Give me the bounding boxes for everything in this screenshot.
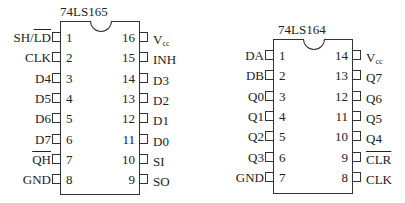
pin-label: Q5 bbox=[366, 112, 382, 130]
pin-label: D4 bbox=[35, 72, 51, 90]
pin-number: 9 bbox=[342, 151, 349, 165]
pin-label: Q6 bbox=[366, 92, 382, 110]
pin-box bbox=[353, 91, 361, 101]
pin-box bbox=[140, 174, 148, 184]
pin-label: GND bbox=[23, 173, 51, 191]
chip-title: 74LS164 bbox=[278, 22, 326, 38]
pin-number: 2 bbox=[66, 51, 73, 65]
pin-label: Q7 bbox=[366, 71, 382, 89]
pin-box bbox=[140, 73, 148, 83]
pin-label: D7 bbox=[35, 133, 51, 151]
pin-label: Q4 bbox=[366, 132, 382, 150]
pin-number: 3 bbox=[66, 72, 73, 86]
pin-number: 4 bbox=[279, 110, 286, 124]
pin-number: 1 bbox=[279, 49, 286, 63]
pin-box bbox=[52, 52, 60, 62]
pin-box bbox=[353, 172, 361, 182]
pin-box bbox=[140, 134, 148, 144]
pin-number: 12 bbox=[335, 90, 348, 104]
pin-box bbox=[52, 134, 60, 144]
pin-number: 9 bbox=[129, 173, 136, 187]
pin-label: Vcc bbox=[153, 33, 170, 51]
pin-box bbox=[353, 111, 361, 121]
pin-number: 6 bbox=[279, 151, 286, 165]
pin-number: 8 bbox=[342, 171, 349, 185]
pin-number: 7 bbox=[66, 153, 73, 167]
pin-box bbox=[140, 93, 148, 103]
pin-box bbox=[52, 93, 60, 103]
pin-number: 14 bbox=[335, 49, 348, 63]
pin-box bbox=[52, 154, 60, 164]
pin-label: D1 bbox=[153, 114, 169, 132]
pin-label: SI bbox=[153, 155, 165, 173]
pin-label: DA bbox=[245, 49, 264, 67]
pin-number: 4 bbox=[66, 92, 73, 106]
pin-number: 14 bbox=[122, 72, 135, 86]
chip-notch bbox=[90, 21, 112, 32]
pin-number: 6 bbox=[66, 133, 73, 147]
pin-number: 13 bbox=[122, 92, 135, 106]
pin-box bbox=[52, 73, 60, 83]
pin-box bbox=[52, 174, 60, 184]
pin-number: 10 bbox=[335, 130, 348, 144]
chip-title: 74LS165 bbox=[60, 4, 108, 20]
pin-number: 2 bbox=[279, 69, 286, 83]
pin-box bbox=[140, 32, 148, 42]
chip-notch bbox=[303, 39, 325, 50]
pin-box bbox=[140, 52, 148, 62]
pin-box bbox=[52, 113, 60, 123]
pin-box bbox=[353, 152, 361, 162]
pin-box bbox=[265, 91, 273, 101]
pin-label: GND bbox=[236, 171, 264, 189]
pin-number: 13 bbox=[335, 69, 348, 83]
pin-box bbox=[140, 154, 148, 164]
pin-box bbox=[265, 50, 273, 60]
pin-box bbox=[265, 152, 273, 162]
pin-number: 3 bbox=[279, 90, 286, 104]
pin-number: 11 bbox=[122, 133, 135, 147]
chip-body bbox=[60, 21, 140, 195]
pin-label: D5 bbox=[35, 92, 51, 110]
pin-box bbox=[52, 32, 60, 42]
pin-label: D6 bbox=[35, 112, 51, 130]
pin-label: Vcc bbox=[366, 51, 383, 69]
pin-number: 8 bbox=[66, 173, 73, 187]
pin-label: Q3 bbox=[248, 151, 264, 169]
pin-label: D3 bbox=[153, 74, 169, 92]
pin-number: 15 bbox=[122, 51, 135, 65]
pin-label: QH bbox=[32, 153, 51, 171]
pin-number: 5 bbox=[66, 112, 73, 126]
pin-label: Q2 bbox=[248, 130, 264, 148]
pin-box bbox=[265, 111, 273, 121]
pin-box bbox=[265, 70, 273, 80]
pin-label: DB bbox=[246, 69, 264, 87]
pin-number: 7 bbox=[279, 171, 286, 185]
pin-label: CLK bbox=[25, 51, 51, 69]
pin-label: SH/LD bbox=[13, 31, 51, 49]
pin-box bbox=[353, 70, 361, 80]
pin-number: 10 bbox=[122, 153, 135, 167]
pin-number: 5 bbox=[279, 130, 286, 144]
pin-number: 16 bbox=[122, 31, 135, 45]
pin-number: 1 bbox=[66, 31, 73, 45]
pin-label: D0 bbox=[153, 135, 169, 153]
pin-box bbox=[265, 131, 273, 141]
pin-label: SO bbox=[153, 175, 170, 193]
pin-label: INH bbox=[153, 53, 176, 71]
pin-label: D2 bbox=[153, 94, 169, 112]
pin-box bbox=[353, 50, 361, 60]
pin-label: CLR bbox=[366, 153, 391, 171]
pin-box bbox=[265, 172, 273, 182]
pin-label: CLK bbox=[366, 173, 392, 191]
pin-number: 11 bbox=[335, 110, 348, 124]
pin-number: 12 bbox=[122, 112, 135, 126]
pin-label: Q1 bbox=[248, 110, 264, 128]
pin-box bbox=[140, 113, 148, 123]
pin-box bbox=[353, 131, 361, 141]
pin-label: Q0 bbox=[248, 90, 264, 108]
